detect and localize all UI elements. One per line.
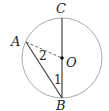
label-b: B	[55, 98, 66, 111]
circle-diagram: C B A O 2 1	[0, 0, 109, 111]
label-o: O	[66, 55, 77, 70]
angle-1-label: 1	[54, 73, 62, 87]
label-a: A	[10, 34, 20, 49]
label-c: C	[56, 1, 66, 16]
center-point-o	[60, 56, 64, 60]
angle-2-label: 2	[39, 49, 47, 63]
